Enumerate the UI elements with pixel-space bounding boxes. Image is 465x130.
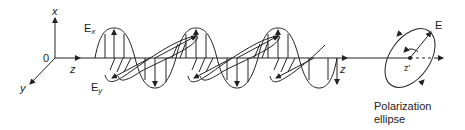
z-axis-label: z — [70, 64, 76, 75]
origin-label: 0 — [43, 53, 49, 64]
caption-line-1: Polarization — [374, 100, 431, 113]
ey-wave — [105, 36, 325, 82]
e-vector — [410, 32, 431, 58]
rotation-arrow — [404, 49, 418, 52]
ey-label: Ey — [91, 82, 102, 95]
ey-sub: y — [98, 86, 102, 95]
caption-line-2: ellipse — [374, 113, 431, 126]
e-vector-label: E — [435, 20, 442, 31]
ex-sub: x — [91, 27, 95, 36]
ellipse-caption: Polarization ellipse — [374, 100, 431, 126]
z-axis-far-label: z — [340, 64, 346, 75]
z-prime-label: z' — [404, 64, 410, 73]
ex-label: Ex — [84, 23, 95, 36]
y-axis-label: y — [20, 83, 26, 94]
x-axis-label: x — [52, 6, 58, 17]
ellipse-center — [408, 56, 412, 60]
